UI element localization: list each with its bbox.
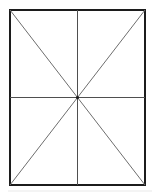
figure-canvas <box>0 0 159 195</box>
rectangle-diagonals-svg <box>0 0 159 195</box>
center-intersection-point <box>76 96 79 99</box>
